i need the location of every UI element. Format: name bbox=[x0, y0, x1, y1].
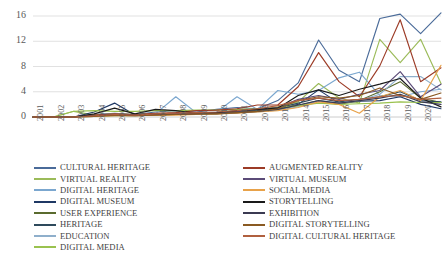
legend-column-right: AUGMENTED REALITYVIRTUAL MUSEUMSOCIAL ME… bbox=[243, 162, 395, 242]
series-line-augmented-reality bbox=[33, 20, 441, 117]
x-axis-tick-label: 2001 bbox=[36, 105, 45, 121]
x-axis-tick-label: 2019 bbox=[404, 105, 413, 121]
legend-swatch-icon bbox=[243, 167, 265, 169]
legend-item[interactable]: DIGITAL CULTURAL HERITAGE bbox=[243, 230, 395, 241]
legend-item[interactable]: VIRTUAL MUSEUM bbox=[243, 173, 395, 184]
legend-swatch-icon bbox=[243, 189, 265, 191]
series-lines bbox=[33, 13, 441, 117]
x-axis-tick-label: 2014 bbox=[302, 105, 311, 121]
y-axis-tick-label: 8 bbox=[0, 60, 26, 71]
x-axis-tick-label: 2011 bbox=[240, 105, 249, 121]
legend-item-label: USER EXPERIENCE bbox=[60, 208, 137, 219]
x-axis-tick-label: 2009 bbox=[200, 105, 209, 121]
legend-item[interactable]: DIGITAL HERITAGE bbox=[34, 185, 150, 196]
x-axis-tick-label: 2004 bbox=[98, 105, 107, 121]
x-axis-tick-label: 2016 bbox=[342, 105, 351, 121]
legend-item[interactable]: CULTURAL HERITAGE bbox=[34, 162, 150, 173]
x-axis-tick-label: 2003 bbox=[77, 105, 86, 121]
chart-legend: CULTURAL HERITAGEVIRTUAL REALITYDIGITAL … bbox=[0, 162, 444, 263]
plot-area: 0481216 20012002200320042005200620072008… bbox=[0, 0, 444, 160]
legend-item[interactable]: AUGMENTED REALITY bbox=[243, 162, 395, 173]
x-axis-tick-label: 2012 bbox=[261, 105, 270, 121]
legend-item-label: DIGITAL HERITAGE bbox=[60, 185, 139, 196]
legend-item[interactable]: DIGITAL MUSEUM bbox=[34, 196, 150, 207]
y-axis-tick-label: 4 bbox=[0, 85, 26, 96]
legend-item-label: DIGITAL CULTURAL HERITAGE bbox=[269, 231, 395, 242]
legend-item[interactable]: DIGITAL STORYTELLING bbox=[243, 219, 395, 230]
legend-swatch-icon bbox=[34, 235, 56, 237]
legend-item-label: DIGITAL STORYTELLING bbox=[269, 219, 370, 230]
legend-item-label: EXHIBITION bbox=[269, 208, 319, 219]
legend-swatch-icon bbox=[34, 224, 56, 226]
legend-swatch-icon bbox=[243, 235, 265, 237]
legend-item[interactable]: USER EXPERIENCE bbox=[34, 208, 150, 219]
legend-swatch-icon bbox=[243, 212, 265, 214]
legend-item-label: EDUCATION bbox=[60, 231, 110, 242]
legend-item-label: CULTURAL HERITAGE bbox=[60, 162, 150, 173]
legend-item[interactable]: STORYTELLING bbox=[243, 196, 395, 207]
legend-swatch-icon bbox=[34, 212, 56, 214]
legend-swatch-icon bbox=[243, 178, 265, 180]
legend-item-label: VIRTUAL REALITY bbox=[60, 174, 137, 185]
legend-item-label: SOCIAL MEDIA bbox=[269, 185, 331, 196]
x-axis-tick-label: 2002 bbox=[57, 105, 66, 121]
legend-swatch-icon bbox=[34, 246, 56, 248]
y-axis-tick-label: 0 bbox=[0, 110, 26, 121]
legend-item-label: STORYTELLING bbox=[269, 196, 333, 207]
legend-item[interactable]: HERITAGE bbox=[34, 219, 150, 230]
x-axis-tick-label: 2020 bbox=[424, 105, 433, 121]
legend-item[interactable]: VIRTUAL REALITY bbox=[34, 173, 150, 184]
x-axis-tick-label: 2008 bbox=[179, 105, 188, 121]
x-axis-tick-label: 2017 bbox=[363, 105, 372, 121]
legend-item[interactable]: DIGITAL MEDIA bbox=[34, 242, 150, 253]
legend-item-label: HERITAGE bbox=[60, 219, 103, 230]
line-chart-svg bbox=[0, 0, 444, 160]
legend-swatch-icon bbox=[34, 167, 56, 169]
legend-swatch-icon bbox=[34, 178, 56, 180]
x-axis-tick-label: 2013 bbox=[281, 105, 290, 121]
legend-item-label: DIGITAL MEDIA bbox=[60, 242, 125, 253]
legend-swatch-icon bbox=[243, 201, 265, 203]
x-axis-tick-label: 2005 bbox=[118, 105, 127, 121]
legend-swatch-icon bbox=[34, 189, 56, 191]
x-axis-tick-label: 2010 bbox=[220, 105, 229, 121]
legend-column-left: CULTURAL HERITAGEVIRTUAL REALITYDIGITAL … bbox=[34, 162, 150, 253]
series-line-virtual-reality bbox=[33, 39, 441, 117]
legend-item[interactable]: EDUCATION bbox=[34, 230, 150, 241]
x-axis-tick-label: 2007 bbox=[159, 105, 168, 121]
legend-item[interactable]: SOCIAL MEDIA bbox=[243, 185, 395, 196]
legend-swatch-icon bbox=[34, 201, 56, 203]
chart-figure: 0481216 20012002200320042005200620072008… bbox=[0, 0, 444, 263]
legend-item[interactable]: EXHIBITION bbox=[243, 208, 395, 219]
legend-item-label: VIRTUAL MUSEUM bbox=[269, 174, 346, 185]
x-axis-tick-label: 2015 bbox=[322, 105, 331, 121]
x-axis-tick-label: 2006 bbox=[138, 105, 147, 121]
y-axis-tick-label: 16 bbox=[0, 9, 26, 20]
legend-item-label: DIGITAL MUSEUM bbox=[60, 196, 134, 207]
x-axis-tick-label: 2018 bbox=[383, 105, 392, 121]
y-axis-tick-label: 12 bbox=[0, 34, 26, 45]
legend-item-label: AUGMENTED REALITY bbox=[269, 162, 363, 173]
legend-swatch-icon bbox=[243, 224, 265, 226]
